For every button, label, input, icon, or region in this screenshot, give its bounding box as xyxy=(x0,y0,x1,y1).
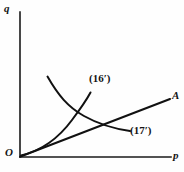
origin-label: O xyxy=(5,147,13,158)
economics-supply-demand-figure: q p O A (16′) (17′) xyxy=(0,0,184,172)
curve-17-demand xyxy=(48,77,131,132)
plot-canvas xyxy=(0,0,184,172)
quantity-axis-label: q xyxy=(4,3,10,14)
curve-16-supply xyxy=(21,93,91,156)
curve-17-label: (17′) xyxy=(130,125,151,136)
line-a-label: A xyxy=(172,90,179,101)
price-axis-label: p xyxy=(173,150,179,161)
curve-16-label: (16′) xyxy=(89,73,110,84)
